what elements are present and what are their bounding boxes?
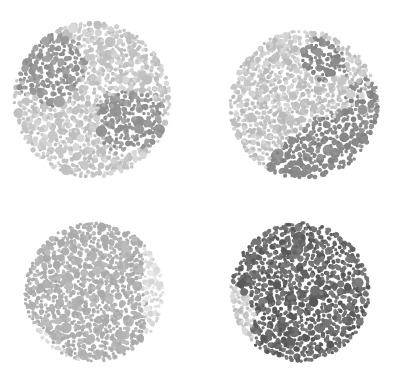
ishihara-plate-3	[23, 221, 165, 363]
dot-field-canvas	[228, 29, 380, 181]
dot-field-canvas	[12, 20, 172, 180]
dot-field-canvas	[229, 221, 371, 363]
ishihara-plate-sheet	[0, 0, 398, 392]
dot-field-canvas	[23, 221, 165, 363]
ishihara-plate-4	[229, 221, 371, 363]
ishihara-plate-2	[228, 29, 380, 181]
ishihara-plate-1	[12, 20, 172, 180]
